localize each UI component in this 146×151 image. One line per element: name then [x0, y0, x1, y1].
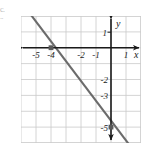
x-tick-label: 1	[124, 50, 129, 60]
x-tick-label: -5	[32, 50, 40, 60]
x-tick-label: -4	[47, 50, 55, 60]
coordinate-plane: -5 -4 -2 -1 1 1 -2 -3 -5 y x	[21, 16, 141, 143]
y-tick-label: -5	[101, 123, 109, 133]
x-tick-label: -1	[92, 50, 100, 60]
exercise-letter-margin: c. ..	[0, 6, 16, 20]
x-tick-labels: -5 -4 -2 -1 1	[32, 50, 128, 60]
y-axis-label: y	[115, 18, 121, 29]
x-axis-label: x	[133, 49, 139, 60]
y-tick-label: -3	[101, 91, 109, 101]
continuation-dots: ..	[0, 14, 16, 20]
x-tick-label: -2	[77, 50, 85, 60]
y-intercept-point	[109, 125, 114, 130]
y-tick-label: 1	[103, 28, 108, 38]
graph-figure: c. ..	[0, 0, 146, 151]
y-tick-label: -2	[101, 75, 109, 85]
